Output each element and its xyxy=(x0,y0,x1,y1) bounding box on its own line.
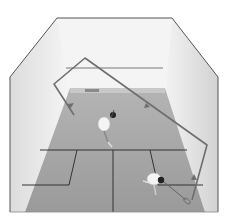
squash-court-image xyxy=(0,0,229,221)
back-wall xyxy=(57,18,172,88)
tin xyxy=(70,88,165,93)
court-illustration xyxy=(0,0,229,221)
tin-marker xyxy=(85,89,99,92)
